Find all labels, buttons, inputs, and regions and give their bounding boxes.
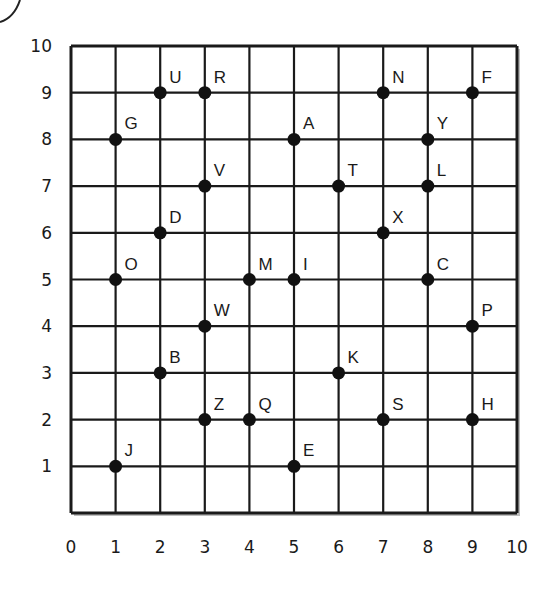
point-label: M: [258, 255, 272, 274]
x-tick-label: 8: [422, 537, 433, 557]
point-label: W: [214, 301, 230, 320]
point-label: J: [125, 441, 134, 460]
point-label: I: [303, 255, 308, 274]
point-marker-icon: [466, 320, 479, 333]
point-marker-icon: [198, 86, 211, 99]
x-tick-label: 2: [155, 537, 166, 557]
point-marker-icon: [198, 413, 211, 426]
point-label: Y: [437, 114, 448, 133]
point-marker-icon: [109, 133, 122, 146]
y-tick-label: 10: [30, 36, 52, 56]
point-label: S: [392, 395, 403, 414]
point-label: F: [481, 68, 491, 87]
coordinate-grid: 012345678910 12345678910 URNFGAYVTLDXOMI…: [0, 0, 549, 592]
point-label: L: [437, 161, 446, 180]
y-tick-label: 7: [41, 176, 52, 196]
y-tick-label: 2: [41, 410, 52, 430]
x-tick-label: 6: [333, 537, 344, 557]
x-tick-label: 4: [244, 537, 255, 557]
point-label: H: [481, 395, 493, 414]
point-marker-icon: [198, 180, 211, 193]
point-marker-icon: [109, 460, 122, 473]
point-label: C: [437, 255, 449, 274]
point-label: V: [214, 161, 226, 180]
point-label: D: [169, 208, 181, 227]
point-label: N: [392, 68, 404, 87]
y-axis-labels: 12345678910: [30, 36, 52, 476]
y-tick-label: 1: [41, 456, 52, 476]
point-marker-icon: [332, 180, 345, 193]
point-marker-icon: [243, 413, 256, 426]
x-tick-label: 0: [66, 537, 77, 557]
point-marker-icon: [288, 273, 301, 286]
point-marker-icon: [154, 86, 167, 99]
point-marker-icon: [377, 226, 390, 239]
y-tick-label: 8: [41, 129, 52, 149]
point-label: P: [481, 301, 492, 320]
point-label: Z: [214, 395, 224, 414]
point-label: B: [169, 348, 180, 367]
point-label: E: [303, 441, 314, 460]
point-marker-icon: [377, 413, 390, 426]
point-label: X: [392, 208, 403, 227]
point-marker-icon: [109, 273, 122, 286]
point-marker-icon: [154, 226, 167, 239]
point-marker-icon: [421, 273, 434, 286]
point-label: G: [125, 114, 138, 133]
point-marker-icon: [377, 86, 390, 99]
point-label: U: [169, 68, 181, 87]
x-tick-label: 7: [378, 537, 389, 557]
point-marker-icon: [154, 366, 167, 379]
y-tick-label: 4: [41, 316, 52, 336]
point-label: O: [125, 255, 138, 274]
point-marker-icon: [198, 320, 211, 333]
point-marker-icon: [332, 366, 345, 379]
x-tick-label: 5: [289, 537, 300, 557]
point-marker-icon: [421, 180, 434, 193]
point-marker-icon: [288, 460, 301, 473]
x-tick-label: 3: [199, 537, 210, 557]
y-tick-label: 3: [41, 363, 52, 383]
point-label: R: [214, 68, 226, 87]
point-label: Q: [258, 395, 271, 414]
x-axis-labels: 012345678910: [66, 537, 528, 557]
y-tick-label: 5: [41, 270, 52, 290]
point-label: T: [348, 161, 358, 180]
point-marker-icon: [288, 133, 301, 146]
x-tick-label: 9: [467, 537, 478, 557]
x-tick-label: 10: [506, 537, 528, 557]
point-marker-icon: [466, 86, 479, 99]
point-label: K: [348, 348, 360, 367]
point-marker-icon: [466, 413, 479, 426]
point-marker-icon: [421, 133, 434, 146]
x-tick-label: 1: [110, 537, 121, 557]
y-tick-label: 6: [41, 223, 52, 243]
y-tick-label: 9: [41, 83, 52, 103]
corner-circle-fragment: [0, 0, 20, 22]
point-marker-icon: [243, 273, 256, 286]
point-label: A: [303, 114, 315, 133]
